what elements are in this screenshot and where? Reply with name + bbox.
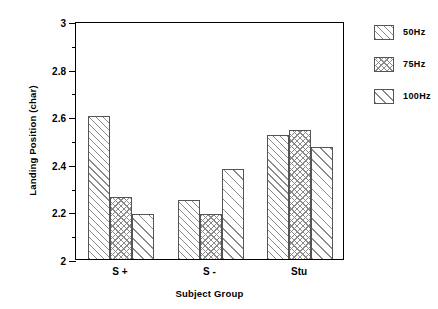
legend-label: 50Hz	[403, 27, 426, 37]
x-category-label: S +	[112, 266, 127, 277]
y-tick-label: 2.2	[52, 208, 66, 219]
bar-100hz-stu	[311, 147, 333, 259]
y-tick-label: 2.8	[52, 65, 66, 76]
legend-item: 100Hz	[374, 85, 436, 107]
legend-swatch-100hz	[374, 89, 394, 104]
bar-75hz-stu	[289, 130, 311, 259]
y-tick-major	[69, 166, 76, 167]
bar-series-group	[76, 23, 343, 259]
y-tick-label: 3	[60, 18, 66, 29]
bar-100hz-s+	[132, 214, 154, 259]
bar-100hz-s-	[222, 169, 244, 259]
legend-swatch-75hz	[374, 57, 394, 72]
y-tick-major	[69, 261, 76, 262]
legend-label: 75Hz	[403, 59, 426, 69]
y-tick-major	[69, 23, 76, 24]
x-category-label: S -	[203, 266, 216, 277]
legend-swatch-50hz	[374, 25, 394, 40]
bar-75hz-s+	[110, 197, 132, 259]
bar-chart: Landing Position (char) 22.22.42.62.83 S…	[0, 0, 438, 309]
y-tick-label: 2.4	[52, 160, 66, 171]
bar-50hz-s+	[88, 116, 110, 259]
y-tick-major	[69, 213, 76, 214]
y-tick-major	[69, 71, 76, 72]
bar-50hz-stu	[267, 135, 289, 259]
y-tick-major	[69, 118, 76, 119]
bar-75hz-s-	[200, 214, 222, 259]
legend-item: 50Hz	[374, 21, 436, 43]
y-tick-label: 2	[60, 256, 66, 267]
legend-label: 100Hz	[403, 91, 431, 101]
legend-item: 75Hz	[374, 53, 436, 75]
legend: 50Hz75Hz100Hz	[374, 21, 436, 117]
y-tick-label: 2.6	[52, 113, 66, 124]
bar-50hz-s-	[178, 200, 200, 260]
x-category-label: Stu	[291, 266, 307, 277]
x-axis-title: Subject Group	[75, 288, 344, 299]
y-axis-title: Landing Position (char)	[27, 46, 38, 236]
plot-area: 22.22.42.62.83	[75, 22, 344, 260]
